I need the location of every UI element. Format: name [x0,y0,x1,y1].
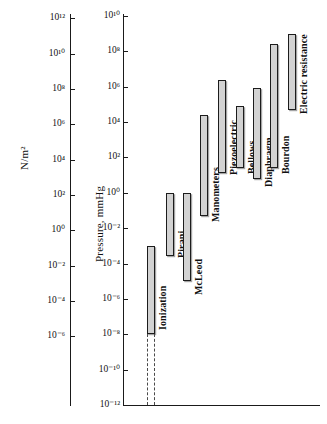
left-tick-label: 10⁻² [40,261,65,271]
right-tick-label: 10⁻² [98,223,120,233]
right-tick-label: 10² [98,152,120,162]
left-tick-label: 10² [40,190,65,200]
bar-category-label: Ionization [157,286,168,330]
left-tick-label: 10¹⁰ [40,49,65,59]
right-tick-label: 10⁶ [98,82,120,92]
left-tick-label: 10¹² [40,13,65,23]
range-bar-dashed-extension [147,334,148,405]
range-bar [200,115,208,216]
range-bar [218,80,226,174]
bar-category-label: Bourdon [280,136,291,175]
left-axis-spine [70,14,71,406]
left-tick-label: 10⁸ [40,84,65,94]
left-tick-label: 10⁶ [40,119,65,129]
bar-category-label: Manometers [210,167,221,222]
range-bar [183,193,191,281]
chart-baseline [123,405,320,406]
bar-category-label: McLeod [193,259,204,295]
right-tick-label: 10⁴ [98,117,120,127]
right-tick-label: 10⁻¹⁰ [98,365,120,375]
range-bar [147,246,155,334]
left-tick-label: 10⁴ [40,155,65,165]
right-tick-label: 10⁸ [98,46,120,56]
right-axis-spine [123,14,124,406]
left-tick-label: 10⁻⁶ [40,331,65,341]
right-tick-label: 10⁻⁶ [98,294,120,304]
left-tick-label: 10⁰ [40,225,65,235]
left-tick-label: 10⁻⁴ [40,296,65,306]
range-bar-dashed-extension [154,334,155,405]
range-bar [270,44,278,168]
right-tick-label: 10¹⁰ [98,11,120,21]
right-tick-label: 10⁻⁴ [98,259,120,269]
range-bar [236,106,244,168]
range-bar [166,193,174,257]
range-bar [288,34,296,110]
pressure-range-chart: N/m² 10¹²10¹⁰10⁸10⁶10⁴10²10⁰10⁻²10⁻⁴10⁻⁶… [0,0,327,424]
left-axis-label: N/m² [18,146,30,170]
right-tick-label: 10⁰ [98,188,120,198]
bar-category-label: Electric resistance [298,34,309,114]
range-bar [253,88,261,178]
right-tick-label: 10⁻⁸ [98,329,120,339]
right-tick-label: 10⁻¹² [98,400,120,410]
